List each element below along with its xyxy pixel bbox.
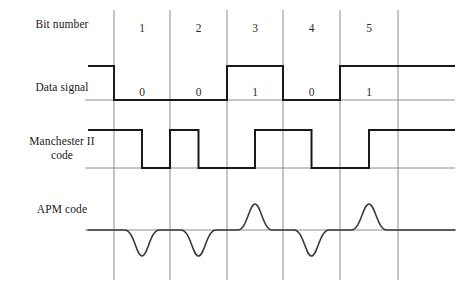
bit-value-1: 0 (196, 86, 202, 98)
baselines (85, 100, 455, 230)
bit-number-5: 5 (366, 22, 372, 34)
manchester-trace (88, 130, 455, 168)
bit-number-4: 4 (309, 22, 315, 34)
bit-value-2: 1 (252, 86, 258, 98)
bit-value-0: 0 (139, 86, 145, 98)
bit-number-labels: 12345 (139, 22, 372, 34)
bit-number-2: 2 (196, 22, 202, 34)
waveform-diagram: 12345 00101 (0, 0, 461, 286)
data-signal-bit-values: 00101 (139, 86, 372, 98)
diagram-page: Bit number Data signal Manchester II cod… (0, 0, 461, 286)
manchester-ii-waveform (88, 130, 455, 168)
bit-value-4: 1 (366, 86, 372, 98)
bit-number-1: 1 (139, 22, 145, 34)
bit-number-3: 3 (252, 22, 258, 34)
bit-value-3: 0 (309, 86, 315, 98)
